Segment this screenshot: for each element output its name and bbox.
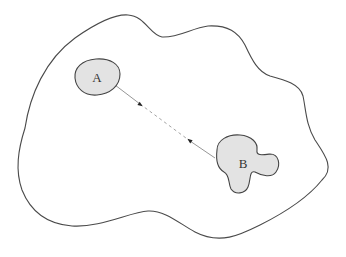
- connector-solid-segment-b: [190, 141, 215, 158]
- connector: [115, 85, 215, 158]
- region-b: B: [217, 135, 279, 193]
- connector-solid-segment-a: [115, 85, 140, 104]
- region-b-shape: [217, 135, 279, 193]
- diagram-canvas: A B: [0, 0, 346, 257]
- outer-region-boundary: [18, 15, 328, 238]
- region-a-label: A: [92, 70, 102, 85]
- region-a: A: [75, 59, 120, 95]
- region-b-label: B: [239, 156, 248, 171]
- connector-dashed-segment: [140, 104, 190, 141]
